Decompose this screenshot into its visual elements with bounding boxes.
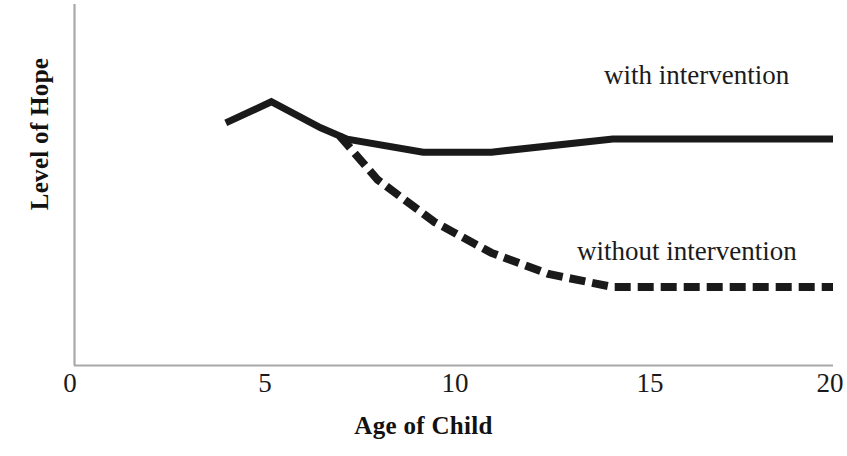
- x-axis-title: Age of Child: [0, 412, 847, 440]
- series-label-without-intervention: without intervention: [577, 238, 797, 265]
- chart-figure: 0 5 10 15 20 Age of Child Level of Hope …: [0, 0, 847, 456]
- y-axis-title: Level of Hope: [26, 58, 53, 210]
- y-axis-title-wrap: Level of Hope: [26, 0, 54, 284]
- series-label-with-intervention: with intervention: [604, 62, 789, 89]
- x-tick-label-10: 10: [425, 370, 485, 397]
- x-tick-label-15: 15: [620, 370, 680, 397]
- series-line-with-intervention: [226, 102, 833, 152]
- x-tick-label-5: 5: [235, 370, 295, 397]
- x-tick-label-0: 0: [40, 370, 100, 397]
- x-tick-label-20: 20: [800, 370, 847, 397]
